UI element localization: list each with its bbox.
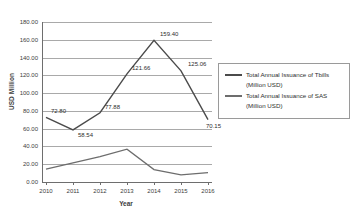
legend-label-sas-line2: (Million USD) [246, 102, 282, 109]
legend-label-tbills: Total Annual Issuance of Tbills (Million… [246, 70, 329, 89]
data-point-label: 70.15 [206, 123, 221, 129]
legend-swatch-tbills-icon [225, 74, 242, 76]
x-axis-tick-label: 2014 [141, 188, 167, 194]
data-point-label: 77.88 [105, 104, 120, 110]
line-series-tbills [46, 40, 208, 130]
legend-item-sas: Total Annual Issuance of SAS (Million US… [223, 91, 345, 110]
x-axis-title: Year [40, 200, 212, 207]
y-axis-tick-label: 80.00 [0, 108, 38, 114]
y-axis-tick-label: 60.00 [0, 126, 38, 132]
y-axis-tick-label: 20.00 [0, 161, 38, 167]
data-point-label: 58.54 [78, 132, 93, 138]
legend-label-sas-line1: Total Annual Issuance of SAS [246, 92, 327, 99]
y-axis-tick-label: 160.00 [0, 37, 38, 43]
line-series-sas [46, 149, 208, 175]
data-point-label: 72.80 [51, 108, 66, 114]
legend-item-tbills: Total Annual Issuance of Tbills (Million… [223, 70, 345, 89]
y-axis-tick-label: 0.00 [0, 179, 38, 185]
x-axis-tick-label: 2016 [195, 188, 221, 194]
x-axis-tick-label: 2010 [33, 188, 59, 194]
y-axis-tick-label: 140.00 [0, 55, 38, 61]
legend-label-tbills-line2: (Million USD) [246, 81, 282, 88]
x-axis-tick-label: 2015 [168, 188, 194, 194]
data-point-label: 125.06 [188, 61, 206, 67]
x-axis-tick-label: 2011 [60, 188, 86, 194]
x-axis-tick-label: 2012 [87, 188, 113, 194]
data-point-label: 159.40 [160, 31, 178, 37]
y-axis-tick-label: 120.00 [0, 72, 38, 78]
y-axis-tick-label: 180.00 [0, 19, 38, 25]
chart-figure: USD Million Year 180.00160.00140.00120.0… [0, 0, 354, 215]
plot-area: 180.00160.00140.00120.00100.0080.0060.00… [42, 22, 212, 182]
data-point-label: 121.66 [132, 65, 150, 71]
x-axis-tick-label: 2013 [114, 188, 140, 194]
series-lines [42, 22, 212, 183]
legend-swatch-sas-icon [225, 95, 242, 97]
y-axis-tick-label: 40.00 [0, 143, 38, 149]
legend-label-sas: Total Annual Issuance of SAS (Million US… [246, 91, 327, 110]
chart-legend: Total Annual Issuance of Tbills (Million… [218, 63, 350, 119]
y-axis-tick-label: 100.00 [0, 90, 38, 96]
legend-label-tbills-line1: Total Annual Issuance of Tbills [246, 71, 329, 78]
